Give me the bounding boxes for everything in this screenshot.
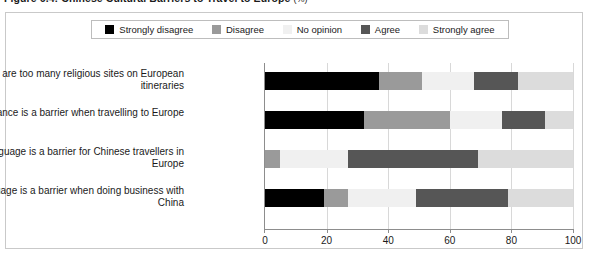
bar-segment-strongly-agree[interactable]	[518, 72, 573, 90]
stacked-bar-chart: There are too many religious sites on Eu…	[6, 13, 584, 250]
tick-100	[573, 229, 574, 233]
category-label-1: Distance is a barrier when travelling to…	[0, 107, 184, 119]
tick-40	[388, 229, 389, 233]
tick-label-60: 60	[444, 235, 455, 246]
bar-segment-disagree[interactable]	[324, 189, 349, 207]
bar-segment-no-opinion[interactable]	[450, 111, 502, 129]
bar-segment-no-opinion[interactable]	[280, 150, 348, 168]
figure-title-unit: (%)	[293, 0, 307, 4]
tick-label-40: 40	[383, 235, 394, 246]
bar-row[interactable]	[265, 111, 573, 129]
bar-segment-strongly-agree[interactable]	[545, 111, 573, 129]
plot-area: 0 20 40 60 80 100	[265, 63, 573, 229]
figure-title-text: Figure 6.4: Chinese Cultural Barriers to…	[4, 0, 290, 4]
bar-segment-agree[interactable]	[474, 72, 517, 90]
bar-segment-strongly-disagree[interactable]	[265, 72, 379, 90]
bar-row[interactable]	[265, 72, 573, 90]
category-label-0: There are too many religious sites on Eu…	[0, 68, 184, 92]
bar-row[interactable]	[265, 150, 573, 168]
bar-segment-agree[interactable]	[502, 111, 545, 129]
tick-0	[264, 229, 265, 233]
tick-label-20: 20	[321, 235, 332, 246]
x-axis-line	[264, 229, 574, 230]
bar-segment-strongly-disagree[interactable]	[265, 111, 364, 129]
bar-segment-disagree[interactable]	[265, 150, 280, 168]
tick-80	[511, 229, 512, 233]
bar-segment-agree[interactable]	[348, 150, 477, 168]
bar-segment-strongly-disagree[interactable]	[265, 189, 324, 207]
bar-segment-strongly-agree[interactable]	[508, 189, 573, 207]
bar-segment-disagree[interactable]	[364, 111, 450, 129]
category-label-2: Language is a barrier for Chinese travel…	[0, 146, 184, 170]
chart-panel: Strongly disagree Disagree No opinion Ag…	[5, 12, 583, 249]
category-label-3: Language is a barrier when doing busines…	[0, 185, 184, 209]
bar-row[interactable]	[265, 189, 573, 207]
gridline-100	[573, 63, 574, 229]
tick-60	[450, 229, 451, 233]
figure-title: Figure 6.4: Chinese Cultural Barriers to…	[4, 0, 308, 6]
tick-label-100: 100	[565, 235, 582, 246]
bar-segment-disagree[interactable]	[379, 72, 422, 90]
tick-20	[327, 229, 328, 233]
bar-segment-strongly-agree[interactable]	[478, 150, 573, 168]
bar-segment-no-opinion[interactable]	[348, 189, 416, 207]
bar-segment-agree[interactable]	[416, 189, 508, 207]
tick-label-80: 80	[506, 235, 517, 246]
bar-segment-no-opinion[interactable]	[422, 72, 474, 90]
tick-label-0: 0	[262, 235, 268, 246]
